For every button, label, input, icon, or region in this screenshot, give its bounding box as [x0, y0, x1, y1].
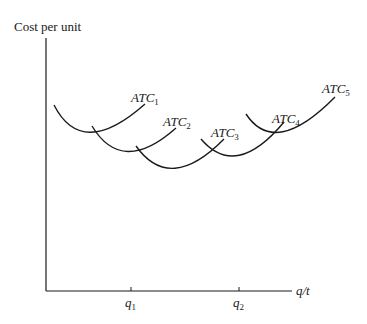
atc3-label: ATC3 — [210, 125, 239, 142]
atc4-label: ATC4 — [271, 111, 300, 128]
y-axis-label: Cost per unit — [14, 19, 82, 34]
atc1-label: ATC1 — [130, 90, 159, 107]
atc5-label: ATC5 — [321, 81, 350, 98]
tick-label-q2: q2 — [233, 295, 244, 312]
atc-diagram: Cost per unit q/t q1 q2 ATC1 ATC2 ATC3 A… — [0, 0, 367, 324]
tick-label-q1: q1 — [125, 295, 136, 312]
x-axis-label: q/t — [296, 283, 310, 298]
atc1-curve — [54, 104, 145, 132]
atc3-curve — [136, 139, 224, 168]
atc2-label: ATC2 — [162, 114, 191, 131]
